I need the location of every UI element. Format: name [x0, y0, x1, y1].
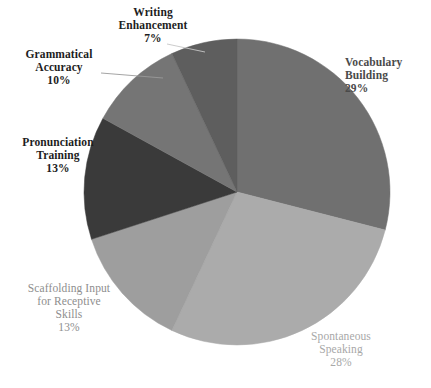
pie-label-scaffolding-input-line3: Skills	[6, 308, 132, 321]
pie-label-writing-enhancement-percent: 7%	[93, 32, 213, 45]
pie-label-spontaneous-speaking-percent: 28%	[286, 356, 396, 369]
pie-chart: Writing Enhancement 7% Grammatical Accur…	[0, 0, 431, 388]
pie-label-pronunciation-training-line1: Pronunciation	[4, 136, 112, 149]
pie-label-scaffolding-input-line2: for Receptive	[6, 295, 132, 308]
pie-label-writing-enhancement-line1: Writing	[93, 6, 213, 19]
pie-label-pronunciation-training-percent: 13%	[4, 162, 112, 175]
pie-label-scaffolding-input: Scaffolding Input for Receptive Skills 1…	[6, 282, 132, 334]
pie-label-vocabulary-building-line2: Building	[345, 69, 431, 82]
pie-label-pronunciation-training-line2: Training	[4, 149, 112, 162]
pie-label-vocabulary-building-percent: 29%	[345, 82, 431, 95]
pie-label-vocabulary-building-line1: Vocabulary	[345, 56, 431, 69]
pie-label-writing-enhancement-line2: Enhancement	[93, 19, 213, 32]
pie-label-vocabulary-building: Vocabulary Building 29%	[345, 56, 431, 95]
pie-label-grammatical-accuracy: Grammatical Accuracy 10%	[4, 48, 114, 87]
pie-label-grammatical-accuracy-line2: Accuracy	[4, 61, 114, 74]
pie-label-scaffolding-input-percent: 13%	[6, 321, 132, 334]
pie-label-grammatical-accuracy-percent: 10%	[4, 74, 114, 87]
pie-label-writing-enhancement: Writing Enhancement 7%	[93, 6, 213, 45]
pie-label-spontaneous-speaking-line1: Spontaneous	[286, 330, 396, 343]
pie-label-pronunciation-training: Pronunciation Training 13%	[4, 136, 112, 175]
pie-label-scaffolding-input-line1: Scaffolding Input	[6, 282, 132, 295]
pie-label-spontaneous-speaking: Spontaneous Speaking 28%	[286, 330, 396, 369]
pie-label-spontaneous-speaking-line2: Speaking	[286, 343, 396, 356]
pie-label-grammatical-accuracy-line1: Grammatical	[4, 48, 114, 61]
